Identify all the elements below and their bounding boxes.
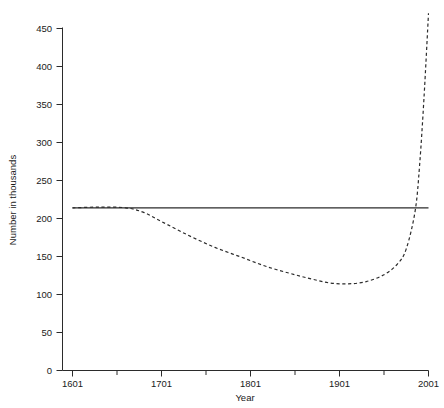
- x-tick-label-1601: 1601: [62, 378, 83, 389]
- y-tick-label-0: 0: [47, 365, 52, 376]
- chart-figure: 0 50 100 150 200 250 300 350 400 450 Num…: [0, 0, 444, 408]
- x-axis-title: Year: [235, 392, 254, 403]
- series-projected-curve: [73, 13, 429, 284]
- y-tick-label-150: 150: [36, 251, 52, 262]
- x-tick-label-1801: 1801: [240, 378, 261, 389]
- y-tick-label-300: 300: [36, 137, 52, 148]
- line-chart-canvas: 0 50 100 150 200 250 300 350 400 450 Num…: [0, 0, 444, 408]
- y-tick-label-200: 200: [36, 213, 52, 224]
- y-tick-label-450: 450: [36, 23, 52, 34]
- y-axis-title: Number in thousands: [7, 155, 18, 246]
- y-tick-label-50: 50: [41, 327, 52, 338]
- y-tick-label-250: 250: [36, 175, 52, 186]
- y-tick-label-400: 400: [36, 61, 52, 72]
- x-tick-label-2001: 2001: [418, 378, 439, 389]
- y-tick-label-350: 350: [36, 99, 52, 110]
- y-tick-label-100: 100: [36, 289, 52, 300]
- y-axis-group: 0 50 100 150 200 250 300 350 400 450 Num…: [7, 23, 63, 376]
- x-tick-label-1901: 1901: [329, 378, 350, 389]
- x-tick-label-1701: 1701: [151, 378, 172, 389]
- x-axis-group: 1601 1701 1801 1901 2001 Year: [62, 371, 439, 404]
- plot-area: [73, 13, 429, 284]
